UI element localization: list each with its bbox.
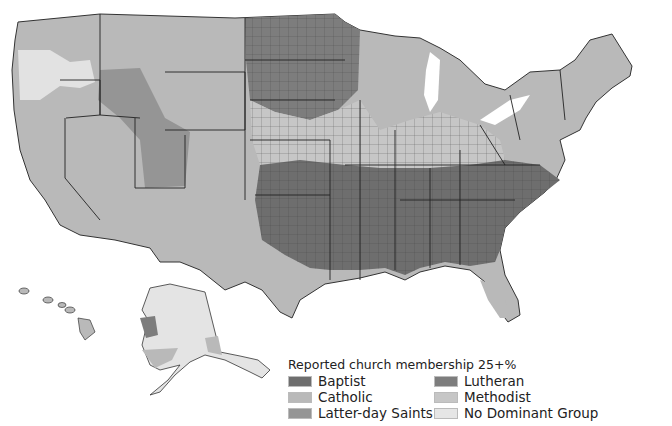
legend-item-latter-day-saints: Latter-day Saints bbox=[288, 405, 434, 421]
legend-item-baptist: Baptist bbox=[288, 373, 434, 389]
legend-item-no-dominant-group: No Dominant Group bbox=[434, 405, 634, 421]
swatch-latter-day-saints bbox=[288, 408, 312, 419]
swatch-no-dominant-group bbox=[434, 408, 458, 419]
region-baptist-pattern bbox=[255, 160, 560, 275]
legend: Reported church membership 25+% Baptist … bbox=[288, 357, 668, 421]
swatch-lutheran bbox=[434, 376, 458, 387]
legend-title: Reported church membership 25+% bbox=[288, 357, 668, 372]
legend-label: Baptist bbox=[318, 373, 365, 389]
alaska-region-lutheran bbox=[140, 316, 158, 338]
swatch-baptist bbox=[288, 376, 312, 387]
legend-label: No Dominant Group bbox=[464, 405, 598, 421]
legend-label: Lutheran bbox=[464, 373, 524, 389]
legend-label: Catholic bbox=[318, 389, 373, 405]
swatch-catholic bbox=[288, 392, 312, 403]
legend-label: Latter-day Saints bbox=[318, 405, 433, 421]
legend-item-catholic: Catholic bbox=[288, 389, 434, 405]
swatch-methodist bbox=[434, 392, 458, 403]
region-lutheran-pattern bbox=[245, 14, 360, 120]
legend-item-lutheran: Lutheran bbox=[434, 373, 634, 389]
legend-item-methodist: Methodist bbox=[434, 389, 634, 405]
legend-label: Methodist bbox=[464, 389, 531, 405]
hawaii bbox=[19, 288, 95, 340]
